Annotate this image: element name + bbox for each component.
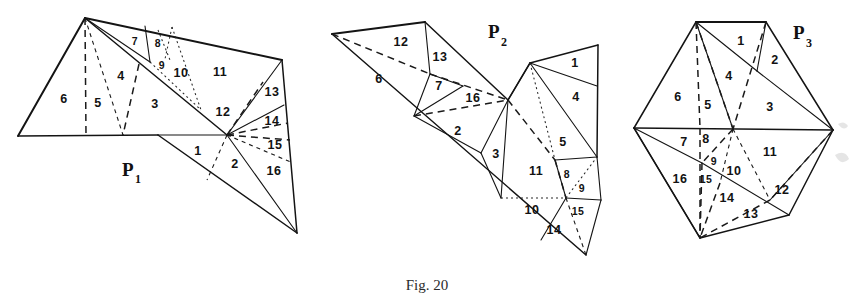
- p3-label-6: 6: [674, 90, 681, 104]
- p3-label-5: 5: [704, 98, 711, 112]
- p2-label-13: 13: [433, 50, 448, 64]
- p2-label-4: 4: [572, 90, 579, 104]
- p3-name-subscript: 3: [806, 36, 812, 50]
- p3-label-14: 14: [720, 191, 735, 205]
- p1-label-3: 3: [151, 97, 158, 111]
- polygon-p2: 12 13 6 7 16 2 3 11 1 4 5 8 9 10 15 14 P…: [332, 21, 601, 255]
- p1-label-7: 7: [132, 35, 138, 47]
- p3-name: P: [793, 22, 805, 43]
- p3-label-11: 11: [763, 145, 777, 159]
- p3-label-2: 2: [771, 53, 778, 67]
- p2-name: P: [488, 21, 500, 42]
- p2-label-1: 1: [571, 56, 578, 70]
- p3-label-16: 16: [673, 172, 688, 186]
- figure-caption: Fig. 20: [406, 277, 449, 293]
- p1-label-11: 11: [213, 65, 227, 79]
- p1-label-8: 8: [155, 37, 161, 49]
- p3-label-12: 12: [775, 183, 790, 197]
- p3-label-15: 15: [700, 173, 713, 185]
- p1-label-14: 14: [265, 114, 280, 128]
- p1-label-1: 1: [194, 144, 201, 158]
- p2-label-2: 2: [454, 124, 461, 138]
- p2-label-12: 12: [394, 35, 409, 49]
- p3-label-9: 9: [711, 155, 717, 167]
- figure-svg: 6 5 4 3 7 8 9 10 11 12 13 14 15 1 2 16 P…: [0, 0, 855, 294]
- p2-label-9: 9: [579, 182, 585, 194]
- p2-label-11: 11: [529, 164, 543, 178]
- p1-label-10: 10: [174, 66, 189, 80]
- p2-label-7: 7: [435, 79, 442, 93]
- p2-label-10: 10: [525, 203, 540, 217]
- p3-label-10: 10: [727, 164, 742, 178]
- p3-label-4: 4: [725, 69, 732, 83]
- p1-label-12: 12: [216, 105, 231, 119]
- p3-label-7: 7: [680, 135, 687, 149]
- p2-label-6: 6: [375, 72, 382, 86]
- p2-label-3: 3: [492, 147, 499, 161]
- p3-label-13: 13: [744, 207, 759, 221]
- p2-label-15: 15: [572, 205, 585, 217]
- figure-root: 6 5 4 3 7 8 9 10 11 12 13 14 15 1 2 16 P…: [0, 0, 855, 294]
- p1-label-5: 5: [94, 96, 101, 110]
- p2-label-5: 5: [559, 135, 566, 149]
- polygon-p3: 1 2 4 6 5 3 7 8 9 10 11 16 15 14 12 13 P…: [634, 22, 849, 238]
- p2-label-14: 14: [547, 223, 562, 237]
- p1-dash-1-2: [207, 135, 227, 180]
- p1-label-16: 16: [267, 164, 282, 178]
- polygon-p1: 6 5 4 3 7 8 9 10 11 12 13 14 15 1 2 16 P…: [18, 18, 297, 233]
- p1-face: [18, 18, 297, 233]
- p2-outline-far-right: [597, 45, 598, 157]
- p1-label-9: 9: [159, 59, 165, 71]
- p3-label-3: 3: [766, 100, 773, 114]
- p1-label-4: 4: [117, 69, 124, 83]
- p1-name-subscript: 1: [135, 172, 141, 186]
- p2-name-subscript: 2: [501, 35, 507, 49]
- p1-name: P: [122, 159, 134, 180]
- p2-label-8: 8: [564, 168, 570, 180]
- p3-label-8: 8: [702, 132, 709, 146]
- scan-smudge: [835, 122, 849, 162]
- p1-label-2: 2: [231, 157, 238, 171]
- p1-outline-base: [18, 135, 158, 136]
- p2-label-16: 16: [466, 91, 481, 105]
- p1-label-13: 13: [265, 85, 280, 99]
- p3-label-1: 1: [737, 34, 744, 48]
- p1-label-6: 6: [60, 92, 67, 106]
- p1-label-15: 15: [268, 138, 283, 152]
